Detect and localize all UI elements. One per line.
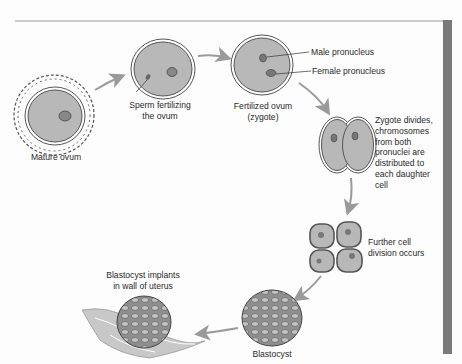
label-implantation: Blastocyst implants in wall of uterus	[100, 270, 186, 291]
label-further-division: Further cell division occurs	[368, 237, 424, 258]
blastocyst-icon	[242, 290, 302, 346]
mature-ovum-icon	[14, 75, 94, 155]
label-sperm-fertilizing: Sperm fertilizing the ovum	[122, 100, 198, 121]
label-female-pronucleus: Female pronucleus	[312, 66, 385, 77]
diagram-canvas: Mature ovum Sperm fertilizing the ovum F…	[0, 0, 462, 364]
four-cell-icon	[310, 222, 362, 272]
label-mature-ovum: Mature ovum	[30, 152, 82, 163]
label-fertilized-ovum: Fertilized ovum (zygote)	[230, 101, 296, 122]
label-zygote-divides: Zygote divides, chromosomes from both pr…	[375, 115, 433, 191]
side-bar	[443, 20, 452, 354]
sperm-fertilizing-icon	[131, 39, 195, 99]
label-male-pronucleus: Male pronucleus	[311, 47, 374, 58]
fertilized-ovum-icon	[231, 35, 311, 95]
implantation-icon	[82, 296, 205, 358]
two-cell-icon	[319, 117, 376, 173]
label-blastocyst: Blastocyst	[246, 349, 298, 360]
